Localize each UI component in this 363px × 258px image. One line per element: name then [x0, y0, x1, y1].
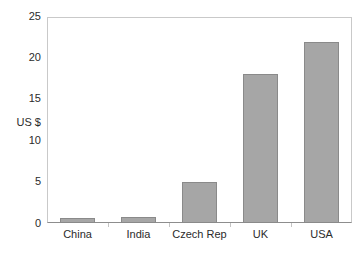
x-tick-label-india: India [108, 228, 169, 240]
x-tickmark-1 [108, 223, 109, 227]
y-tick-label-5: 5 [35, 176, 41, 187]
x-tick-label-uk: UK [230, 228, 291, 240]
bar-uk[interactable] [243, 74, 278, 223]
bar-usa[interactable] [304, 42, 339, 223]
bar-slot-usa [304, 17, 339, 223]
bar-slot-china [60, 17, 95, 223]
bar-czech-rep[interactable] [182, 182, 217, 223]
x-tick-label-china: China [47, 228, 108, 240]
y-tick-label-0: 0 [35, 218, 41, 229]
y-tick-label-10: 10 [29, 135, 41, 146]
y-tick-label-15: 15 [29, 93, 41, 104]
bars-layer [47, 17, 352, 223]
x-tickmark-2 [169, 223, 170, 227]
bar-slot-india [121, 17, 156, 223]
y-axis-title: US $ [17, 117, 41, 128]
y-tick-label-25: 25 [29, 11, 41, 22]
x-tickmark-4 [291, 223, 292, 227]
y-tick-label-20: 20 [29, 52, 41, 63]
bar-india[interactable] [121, 217, 156, 223]
bar-chart-figure: 25 20 15 US $ 10 5 0 China India Czech R… [0, 0, 363, 258]
x-tickmark-3 [230, 223, 231, 227]
y-axis: 25 20 15 US $ 10 5 0 [0, 0, 45, 258]
bar-china[interactable] [60, 218, 95, 223]
bar-slot-uk [243, 17, 278, 223]
x-tick-label-usa: USA [291, 228, 352, 240]
x-tick-label-czech-rep: Czech Rep [169, 228, 230, 240]
bar-slot-czech-rep [182, 17, 217, 223]
